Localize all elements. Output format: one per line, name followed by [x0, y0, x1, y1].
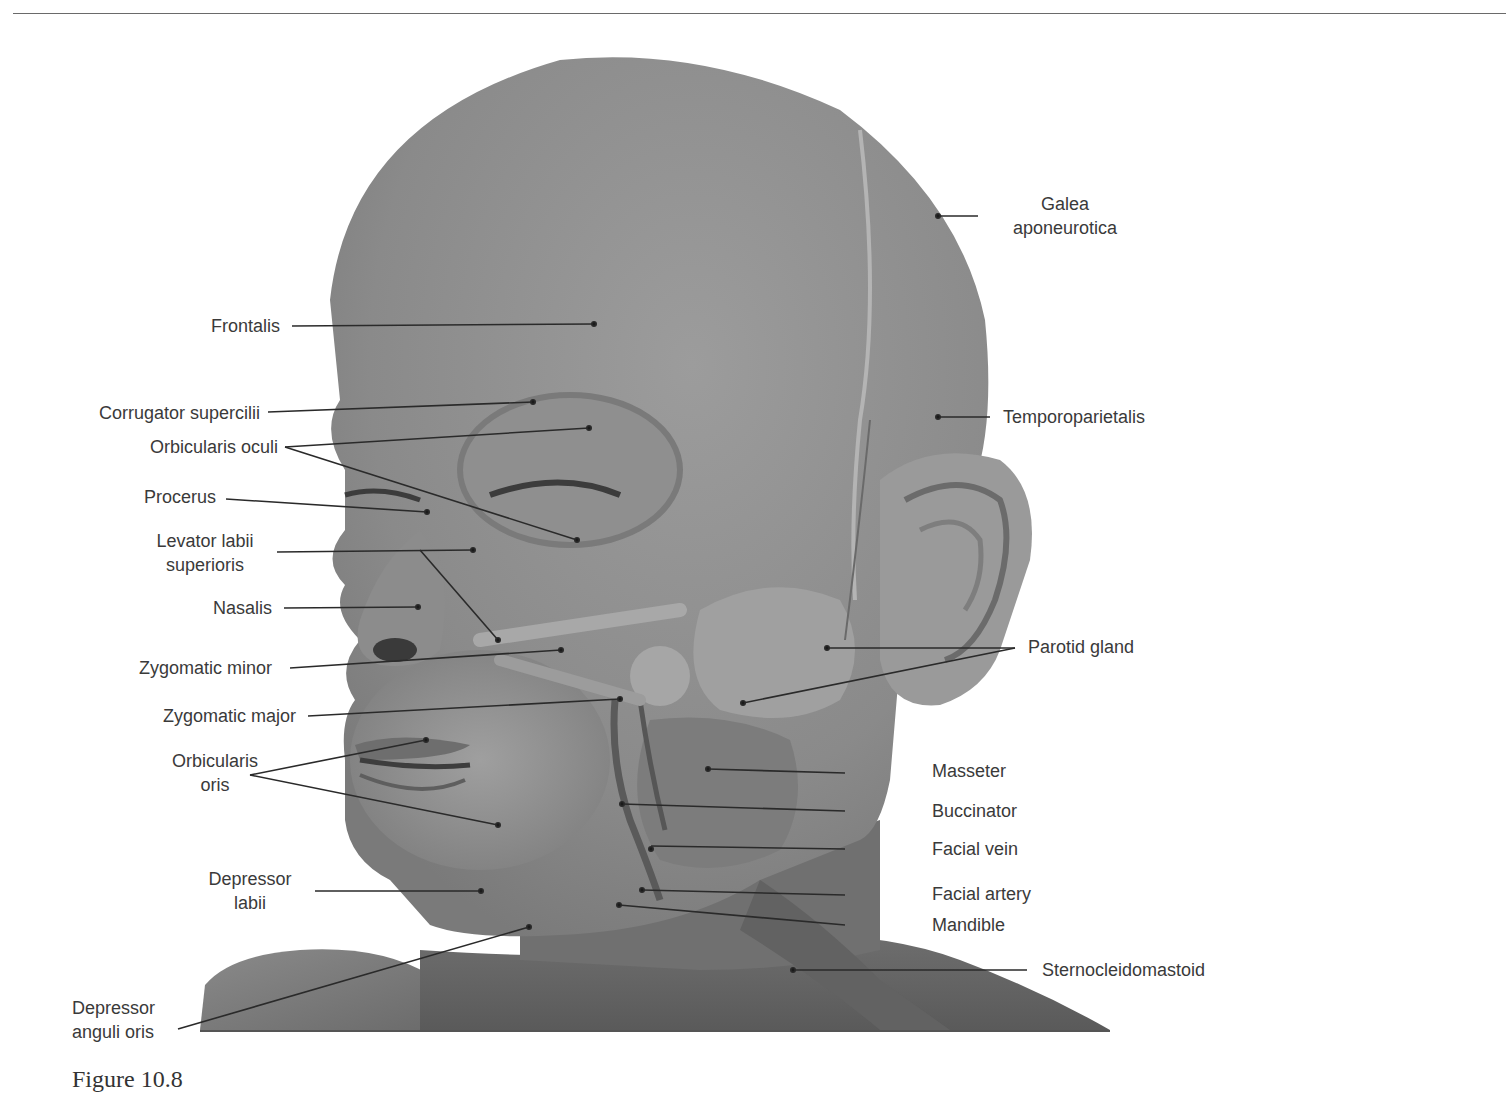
label-temporoparietalis: Temporoparietalis: [1003, 405, 1145, 429]
label-parotid-gland: Parotid gland: [1028, 635, 1134, 659]
label-sternocleidomastoid: Sternocleidomastoid: [1042, 958, 1205, 982]
label-line: Levator labii: [140, 529, 270, 553]
label-mandible: Mandible: [932, 913, 1005, 937]
label-line: Galea: [995, 192, 1135, 216]
label-facial-vein: Facial vein: [932, 837, 1018, 861]
label-line: Depressor: [190, 867, 310, 891]
label-line: labii: [190, 891, 310, 915]
label-depressor-labii: Depressor labii: [190, 867, 310, 915]
label-buccinator: Buccinator: [932, 799, 1017, 823]
label-galea-aponeurotica: Galea aponeurotica: [995, 192, 1135, 240]
ear: [880, 453, 1032, 705]
label-orbicularis-oculi: Orbicularis oculi: [40, 435, 278, 459]
label-orbicularis-oris: Orbicularis oris: [150, 749, 280, 797]
label-line: oris: [150, 773, 280, 797]
label-line: superioris: [140, 553, 270, 577]
label-masseter: Masseter: [932, 759, 1006, 783]
label-zygomatic-major: Zygomatic major: [80, 704, 296, 728]
label-zygomatic-minor: Zygomatic minor: [60, 656, 272, 680]
label-line: anguli oris: [72, 1020, 155, 1044]
label-nasalis: Nasalis: [150, 596, 272, 620]
label-corrugator-supercilii: Corrugator supercilii: [20, 401, 260, 425]
parotid-region: [693, 587, 855, 718]
label-depressor-anguli-oris: Depressor anguli oris: [72, 996, 155, 1044]
figure-caption: Figure 10.8: [72, 1064, 183, 1094]
label-levator-labii-superioris: Levator labii superioris: [140, 529, 270, 577]
left-shoulder: [200, 949, 455, 1030]
label-facial-artery: Facial artery: [932, 882, 1031, 906]
label-line: Orbicularis: [150, 749, 280, 773]
label-line: aponeurotica: [995, 216, 1135, 240]
label-line: Depressor: [72, 996, 155, 1020]
label-procerus: Procerus: [90, 485, 216, 509]
label-frontalis: Frontalis: [90, 314, 280, 338]
